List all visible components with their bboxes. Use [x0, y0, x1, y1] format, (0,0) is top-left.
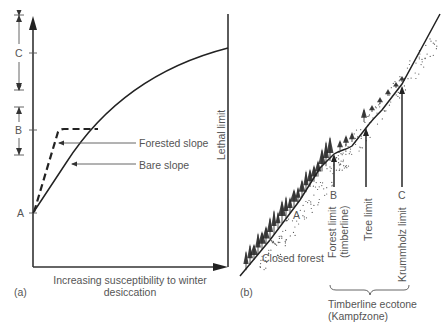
stipple-dot	[326, 187, 327, 188]
stipple-dot	[339, 164, 340, 165]
stipple-dot	[338, 162, 339, 163]
stipple-dot	[385, 110, 386, 111]
stipple-dot	[369, 114, 370, 115]
stipple-dot	[396, 94, 397, 95]
tree-icon	[377, 97, 383, 104]
bracket-label-c: C	[15, 47, 23, 59]
panel-b: B Forest limit (timberline) Tree limit C…	[240, 14, 440, 322]
stipple-dot	[313, 195, 314, 196]
stipple-dot	[279, 242, 280, 243]
stipple-dot	[268, 250, 269, 251]
stipple-dot	[356, 130, 357, 131]
stipple-dot	[295, 235, 296, 236]
stipple-dot	[338, 155, 339, 156]
stipple-dot	[390, 101, 391, 102]
stipple-dot	[336, 170, 337, 171]
tree-icon	[361, 108, 367, 122]
forested-slope-label: Forested slope	[139, 137, 209, 149]
stipple-dot	[348, 146, 349, 147]
stipple-dot	[421, 64, 422, 65]
stipple-dot	[346, 165, 347, 166]
stipple-dot	[302, 215, 303, 216]
stipple-dot	[419, 58, 420, 59]
stipple-dot	[355, 144, 356, 145]
forest-trees	[243, 76, 405, 270]
stipple-dot	[360, 147, 361, 148]
stipple-dot	[350, 149, 351, 150]
stipple-dot	[359, 150, 360, 151]
stipple-dot	[433, 55, 434, 56]
stipple-dot	[319, 199, 320, 200]
stipple-dot	[419, 57, 420, 58]
stipple-dot	[423, 67, 424, 68]
stipple-dot	[367, 116, 368, 117]
stipple-dot	[285, 241, 286, 242]
stipple-dot	[308, 200, 309, 201]
stipple-dot	[305, 201, 306, 202]
stipple-dot	[264, 269, 265, 270]
stipple-dot	[394, 81, 395, 82]
stipple-dot	[285, 242, 286, 243]
stipple-dot	[339, 170, 340, 171]
forest-limit-label: Forest limit	[326, 207, 338, 258]
stipple-dot	[343, 153, 344, 154]
stipple-dot	[345, 154, 346, 155]
ecotone-label-line1: Timberline ecotone	[328, 298, 417, 310]
stipple-dot	[260, 266, 261, 267]
stipple-dot	[411, 78, 412, 79]
stipple-dot	[430, 41, 431, 42]
stipple-dot	[344, 167, 345, 168]
stipple-dot	[321, 185, 322, 186]
stipple-dot	[310, 204, 311, 205]
tree-icon	[337, 140, 343, 150]
stipple-dot	[315, 186, 316, 187]
stipple-dot	[415, 72, 416, 73]
slope-point-a-label: A	[293, 209, 300, 221]
stipple-dot	[282, 231, 283, 232]
bare-slope-curve	[33, 48, 228, 213]
stipple-dot	[391, 87, 392, 88]
stipple-dot	[355, 138, 356, 139]
stipple-dot	[273, 241, 274, 242]
bracket-c: C	[14, 15, 24, 90]
stipple-dot	[340, 153, 341, 154]
x-axis-label-line1: Increasing susceptibility to winter	[53, 274, 207, 286]
stipple-dot	[430, 56, 431, 57]
stipple-dot	[407, 78, 408, 79]
timberline-diagram: Lethal limit A C B	[0, 0, 444, 335]
stipple-dot	[393, 83, 394, 84]
stipple-dot	[382, 118, 383, 119]
stipple-dot	[339, 168, 340, 169]
stipple-dot	[350, 151, 351, 152]
lethal-limit-label: Lethal limit	[215, 110, 227, 160]
tree-icon	[385, 89, 391, 96]
stipple-dot	[404, 85, 405, 86]
stipple-dot	[343, 165, 344, 166]
stipple-dot	[415, 78, 416, 79]
stipple-dot	[329, 166, 330, 167]
stipple-dot	[351, 154, 352, 155]
stipple-dot	[312, 212, 313, 213]
bracket-b: B	[14, 107, 24, 155]
stipple-dot	[270, 250, 271, 251]
tree-icon	[369, 105, 375, 112]
stipple-dot	[340, 164, 341, 165]
stipple-dot	[285, 230, 286, 231]
ecotone-brace	[330, 285, 409, 295]
stipple-dot	[419, 53, 420, 54]
stipple-dot	[389, 94, 390, 95]
stipple-dot	[409, 64, 410, 65]
stipple-dot	[398, 92, 399, 93]
stipple-dot	[405, 89, 406, 90]
stipple-dot	[331, 168, 332, 169]
stipple-dot	[409, 60, 410, 61]
stipple-dot	[343, 160, 344, 161]
stipple-dot	[271, 241, 272, 242]
stipple-dot	[376, 113, 377, 114]
stipple-dot	[276, 245, 277, 246]
tick-label-a: A	[17, 207, 24, 219]
stipple-dot	[415, 63, 416, 64]
stipple-dot	[313, 186, 314, 187]
timberline-label: (timberline)	[338, 205, 350, 258]
stipple-dot	[290, 235, 291, 236]
